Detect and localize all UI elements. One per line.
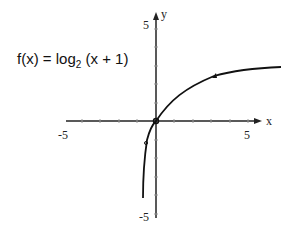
y-axis-label: y (161, 7, 167, 21)
y-axis-arrow-icon (153, 12, 159, 20)
point-3-2 (212, 73, 217, 78)
x-axis-label: x (266, 114, 272, 128)
y-min-label: -5 (139, 210, 149, 224)
y-max-label: 5 (143, 18, 149, 32)
graph-figure: f(x) = log2 (x + 1) x y -5 5 5 -5 (0, 0, 294, 236)
x-axis-arrow-icon (254, 118, 262, 124)
x-min-label: -5 (58, 128, 68, 142)
graph-canvas: x y -5 5 5 -5 (0, 0, 294, 236)
x-max-label: 5 (244, 128, 250, 142)
function-curve (143, 67, 281, 198)
